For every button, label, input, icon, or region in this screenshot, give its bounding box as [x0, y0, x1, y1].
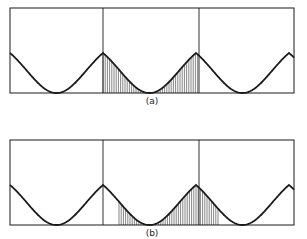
- panel-b: (b): [10, 140, 294, 238]
- periodic-potential-diagram: (a) (b): [0, 0, 307, 239]
- frame-box: [10, 8, 294, 93]
- panel-label-a: (a): [146, 96, 159, 106]
- frame-box: [10, 140, 294, 225]
- potential-curve: [10, 185, 294, 225]
- panel-label-b: (b): [146, 228, 159, 238]
- hatched-region: [103, 53, 198, 93]
- panel-a: (a): [10, 8, 294, 106]
- potential-curve: [10, 53, 294, 93]
